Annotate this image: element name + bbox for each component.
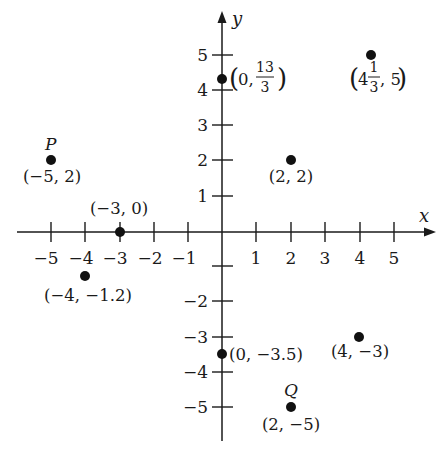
point-label-4-m3: (4, −3) <box>331 342 389 361</box>
y-tick-label: 3 <box>197 115 208 135</box>
y-tick-label: −5 <box>183 397 208 417</box>
x-tick-label: 5 <box>389 248 400 268</box>
x-axis-arrow-icon <box>424 228 436 237</box>
point-label-m3-0: (−3, 0) <box>90 199 148 218</box>
svg-text:): ) <box>277 63 287 93</box>
x-tick-label: −2 <box>137 248 162 268</box>
x-axis-label: x <box>419 205 429 226</box>
point-label-4-1-3-5: ( 4 1 3 , 5 ) <box>349 59 407 95</box>
point-name-p: P <box>44 134 57 154</box>
x-tick-labels: −5 −4 −3 −2 −1 1 2 3 4 5 <box>33 248 399 268</box>
point-label-2-2: (2, 2) <box>269 167 313 186</box>
x-tick-label: −5 <box>33 248 58 268</box>
svg-text:3: 3 <box>261 79 270 95</box>
point-name-q: Q <box>284 380 298 400</box>
point-m4-m1-2 <box>80 271 90 281</box>
y-tick-label: 1 <box>197 186 208 206</box>
point-label-q: (2, −5) <box>262 415 320 434</box>
svg-text:): ) <box>397 63 407 93</box>
point-p <box>46 155 56 165</box>
svg-text:1: 1 <box>370 59 379 75</box>
point-label-0-13-3: ( (0, 0, 13 3 ) <box>229 59 287 95</box>
data-points: ( (0, 0, 13 3 ) ( 4 1 3 , 5 ) P (−5, 2) … <box>23 50 407 434</box>
point-2-2 <box>286 155 296 165</box>
y-tick-label: 5 <box>197 45 208 65</box>
x-tick-label: −4 <box>68 248 93 268</box>
x-tick-label: −3 <box>102 248 127 268</box>
point-m3-0 <box>115 227 125 237</box>
y-axis-arrow-icon <box>218 11 227 23</box>
point-4-m3 <box>354 332 364 342</box>
y-tick-label: −3 <box>183 327 208 347</box>
point-label-0-m3-5: (0, −3.5) <box>229 345 303 364</box>
x-tick-label: −1 <box>171 248 196 268</box>
point-label-p: (−5, 2) <box>23 167 81 186</box>
y-tick-label: −2 <box>183 291 208 311</box>
x-tick-label: 1 <box>251 248 262 268</box>
point-q <box>286 402 296 412</box>
x-tick-label: 2 <box>286 248 297 268</box>
svg-text:13: 13 <box>256 59 274 75</box>
svg-text:0,: 0, <box>238 70 254 89</box>
y-tick-label: 4 <box>197 80 208 100</box>
svg-text:3: 3 <box>370 79 379 95</box>
coordinate-plane: x y −5 −4 −3 −2 −1 1 2 3 4 5 <box>0 0 445 457</box>
point-0-m3-5 <box>217 349 227 359</box>
x-tick-label: 4 <box>355 248 366 268</box>
y-axis-label: y <box>231 8 243 29</box>
point-0-13-3 <box>217 74 227 84</box>
y-tick-labels: 5 4 3 2 1 −2 −3 −4 −5 <box>183 45 208 417</box>
point-label-m4-m1-2: (−4, −1.2) <box>44 286 132 305</box>
y-tick-label: 2 <box>197 150 208 170</box>
svg-text:4: 4 <box>358 70 369 89</box>
x-tick-label: 3 <box>320 248 331 268</box>
y-tick-label: −4 <box>183 362 208 382</box>
